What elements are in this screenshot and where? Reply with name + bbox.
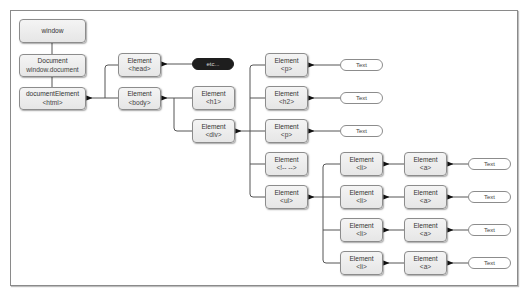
node-label: Element [201, 90, 225, 98]
node-h1: Element <h1> [192, 86, 235, 110]
node-sublabel: <li> [356, 164, 367, 172]
node-a: Element <a> [404, 185, 447, 209]
node-label: Element [349, 222, 373, 230]
node-label: Text [484, 194, 495, 200]
node-text: Text [340, 125, 383, 137]
node-sublabel: <a> [420, 230, 431, 238]
node-sublabel: <li> [356, 230, 367, 238]
node-label: etc... [206, 61, 219, 67]
node-p: Element <p> [265, 53, 308, 77]
node-sublabel: <!-- --> [276, 164, 296, 172]
node-a: Element <a> [404, 218, 447, 242]
node-text: Text [468, 224, 511, 236]
node-label: Element [349, 255, 373, 263]
node-text: Text [468, 158, 511, 170]
node-document-element: documentElement <html> [19, 87, 86, 110]
node-text: Text [468, 257, 511, 269]
node-label: Text [484, 227, 495, 233]
node-label: window [42, 27, 64, 35]
node-text: Text [468, 191, 511, 203]
node-sublabel: <h1> [206, 98, 221, 106]
node-comment: Element <!-- --> [265, 152, 308, 176]
node-body: Element <body> [118, 87, 161, 110]
node-document: Document window.document [19, 54, 86, 77]
node-head: Element <head> [118, 53, 161, 77]
node-label: Element [413, 156, 437, 164]
node-label: Element [274, 57, 298, 65]
node-label: Element [274, 189, 298, 197]
node-label: Element [413, 189, 437, 197]
node-sublabel: <html> [42, 99, 62, 107]
node-label: Text [356, 95, 367, 101]
node-label: Element [349, 156, 373, 164]
node-label: Element [349, 189, 373, 197]
node-sublabel: <p> [281, 131, 292, 139]
node-label: Element [413, 255, 437, 263]
node-sublabel: <ul> [280, 197, 293, 205]
node-sublabel: <li> [356, 197, 367, 205]
node-etc: etc... [192, 58, 234, 70]
node-sublabel: <body> [129, 99, 151, 107]
connector-lines [0, 0, 525, 294]
node-li: Element <li> [340, 218, 383, 242]
node-label: Text [356, 128, 367, 134]
node-sublabel: <a> [420, 197, 431, 205]
node-sublabel: <h2> [279, 98, 294, 106]
node-li: Element <li> [340, 152, 383, 176]
node-label: Element [127, 90, 151, 98]
node-h2: Element <h2> [265, 86, 308, 110]
node-label: Element [127, 57, 151, 65]
node-li: Element <li> [340, 251, 383, 275]
node-window: window [19, 19, 86, 43]
node-label: Element [201, 123, 225, 131]
node-ul: Element <ul> [265, 185, 308, 209]
node-label: Element [413, 222, 437, 230]
node-label: Text [484, 161, 495, 167]
node-label: Element [274, 123, 298, 131]
node-text: Text [340, 92, 383, 104]
node-a: Element <a> [404, 251, 447, 275]
node-sublabel: <div> [205, 131, 221, 139]
node-label: Element [274, 90, 298, 98]
node-sublabel: <p> [281, 65, 292, 73]
node-sublabel: window.document [26, 66, 78, 74]
node-a: Element <a> [404, 152, 447, 176]
node-text: Text [340, 59, 383, 71]
node-li: Element <li> [340, 185, 383, 209]
node-p-second: Element <p> [265, 119, 308, 143]
node-sublabel: <a> [420, 164, 431, 172]
node-sublabel: <li> [356, 263, 367, 271]
node-label: Text [356, 62, 367, 68]
node-label: Text [484, 260, 495, 266]
node-label: Element [274, 156, 298, 164]
node-sublabel: <head> [128, 65, 150, 73]
node-label: Document [37, 57, 67, 65]
node-div: Element <div> [192, 119, 235, 143]
node-label: documentElement [26, 90, 79, 98]
node-sublabel: <a> [420, 263, 431, 271]
